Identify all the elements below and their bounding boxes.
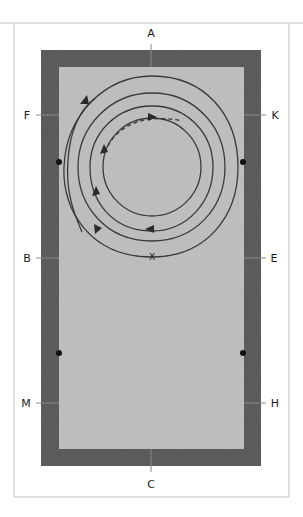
letter-h: H	[271, 398, 279, 409]
letter-e: E	[271, 253, 278, 264]
letter-m: M	[21, 398, 31, 409]
center-marker-x: X	[149, 253, 155, 262]
letter-c: C	[147, 479, 155, 490]
letter-b: B	[23, 253, 31, 264]
dressage-arena-diagram: A C F B M K E H X	[0, 0, 303, 517]
letter-k: K	[271, 110, 278, 121]
letter-a: A	[147, 28, 155, 39]
letter-f: F	[24, 110, 30, 121]
